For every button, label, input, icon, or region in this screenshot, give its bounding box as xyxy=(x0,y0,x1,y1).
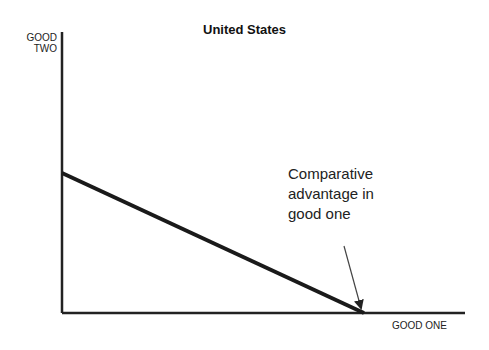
x-axis-label: GOOD ONE xyxy=(392,320,447,331)
annotation-line2: advantage in xyxy=(288,184,428,204)
chart-title: United States xyxy=(203,22,286,37)
y-axis-label: GOOD TWO xyxy=(26,32,57,54)
y-axis-label-line1: GOOD xyxy=(26,32,57,43)
annotation-arrow xyxy=(344,246,361,308)
y-axis-label-line2: TWO xyxy=(26,43,57,54)
annotation-line3: good one xyxy=(288,204,428,224)
annotation-line1: Comparative xyxy=(288,164,428,184)
annotation-text: Comparative advantage in good one xyxy=(288,164,428,224)
chart-stage: GOOD TWO United States GOOD ONE Comparat… xyxy=(0,0,489,350)
